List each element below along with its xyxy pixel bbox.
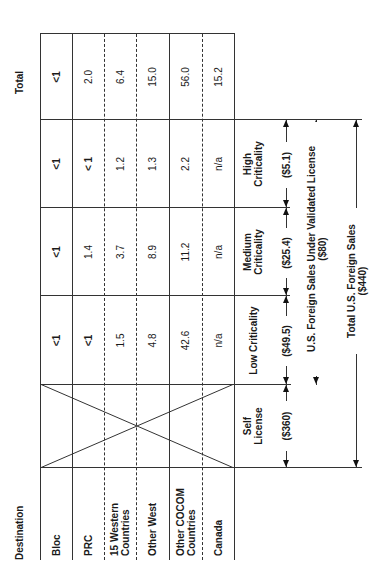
arrow-high-left-icon: [283, 200, 289, 207]
col-header-high: High Criticality: [238, 120, 268, 208]
col-header-medium: Medium Criticality: [238, 208, 268, 296]
col-header-text: High: [242, 141, 253, 187]
amount-high: ($5.1): [279, 142, 293, 188]
col-header-self-license: Self License: [238, 384, 268, 468]
cell-othercocom-total: 56.0: [169, 34, 202, 120]
row-label-15-western: 15 Western Countries: [104, 468, 136, 560]
row-label-other-west: Other West: [136, 468, 169, 560]
cell-prc-low: <1: [72, 296, 104, 385]
arrow-high-right-icon: [283, 120, 289, 127]
arrow-low-right-icon: [283, 296, 289, 303]
validated-license-text: U.S. Foreign Sales Under Validated Licen…: [306, 146, 317, 352]
cell-bloc-high: <1: [40, 120, 72, 208]
arrow-total-left-icon: [353, 460, 359, 467]
cell-15western-medium: 3.7: [104, 208, 136, 296]
cell-prc-high: < 1: [72, 120, 104, 208]
cell-canada-total: 15.2: [202, 34, 234, 120]
row-label-text: Countries: [186, 488, 197, 556]
total-sales-label: Total U.S. Foreign Sales ($440): [345, 208, 369, 354]
total-sales-text: Total U.S. Foreign Sales: [346, 224, 357, 338]
cell-15western-total: 6.4: [104, 34, 136, 120]
amount-medium: ($25.4): [279, 228, 293, 278]
cell-prc-medium: 1.4: [72, 208, 104, 296]
col-header-text: Low Criticality: [248, 306, 259, 374]
arrow-medium-right-icon: [283, 208, 289, 215]
cell-otherwest-high: 1.3: [136, 120, 169, 208]
cell-canada-high: n/a: [202, 120, 234, 208]
cell-otherwest-total: 15.0: [136, 34, 169, 120]
row-label-text: Bloc: [51, 534, 62, 556]
validated-license-amount: ($80): [317, 237, 328, 260]
row-label-text: 15 Western: [109, 503, 120, 556]
row-label-bloc: Bloc: [40, 468, 72, 560]
cell-prc-total: 2.0: [72, 34, 104, 120]
col-header-text: Self: [242, 407, 253, 444]
destination-header: Destination: [14, 506, 25, 560]
arrow-low-left-icon: [283, 377, 289, 384]
col-header-text: License: [253, 407, 264, 444]
total-sales-amount: ($440): [357, 267, 368, 296]
row-label-text: Canada: [213, 520, 224, 556]
arrow-medium-left-icon: [283, 288, 289, 295]
cell-canada-low: n/a: [202, 296, 234, 385]
col-header-low: Low Criticality: [238, 296, 268, 385]
cell-othercocom-low: 42.6: [169, 296, 202, 385]
cell-otherwest-low: 4.8: [136, 296, 169, 385]
col-header-text: Criticality: [253, 141, 264, 187]
cell-15western-high: 1.2: [104, 120, 136, 208]
arrow-total-right-icon: [353, 120, 359, 127]
tick-medium-high: [234, 207, 290, 208]
cell-othercocom-high: 2.2: [169, 120, 202, 208]
cell-bloc-low: <1: [40, 296, 72, 385]
amount-low: ($49.5): [279, 316, 293, 366]
row-label-text: Other West: [147, 503, 158, 556]
validated-license-label: U.S. Foreign Sales Under Validated Licen…: [305, 122, 329, 376]
rotated-diagram: Destination Total Bloc PRC 15 Western Co…: [0, 0, 391, 586]
total-header: Total: [14, 71, 25, 94]
row-label-text: PRC: [83, 535, 94, 556]
arrow-self-left-icon: [283, 460, 289, 467]
table-border-bottom: [234, 34, 235, 560]
crossed-out-icon: [40, 384, 235, 468]
col-header-text: Medium: [242, 229, 253, 275]
row-label-canada: Canada: [202, 468, 234, 560]
row-label-text: Countries: [120, 503, 131, 556]
cell-othercocom-medium: 11.2: [169, 208, 202, 296]
row-label-text: Other COCOM: [175, 488, 186, 556]
cell-canada-medium: n/a: [202, 208, 234, 296]
arrow-self-right-icon: [283, 385, 289, 392]
col-header-text: Criticality: [253, 229, 264, 275]
cell-otherwest-medium: 8.9: [136, 208, 169, 296]
cell-bloc-total: <1: [40, 34, 72, 120]
cell-bloc-medium: <1: [40, 208, 72, 296]
arrow-validated-left-icon: [313, 377, 319, 384]
amount-self-license: ($360): [279, 401, 293, 451]
row-label-other-cocom: Other COCOM Countries: [169, 468, 202, 560]
cell-15western-low: 1.5: [104, 296, 136, 385]
row-label-prc: PRC: [72, 468, 104, 560]
tick-low-medium: [234, 295, 290, 296]
